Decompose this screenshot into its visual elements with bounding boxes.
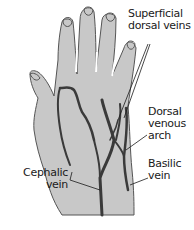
- label-superficial-dorsal-veins: Superficial dorsal veins: [128, 8, 191, 32]
- hand-vein-diagram: Superficial dorsal veins Dorsal venous a…: [0, 0, 194, 230]
- label-line: vein: [14, 179, 68, 191]
- label-cephalic-vein: Cephalic vein: [14, 167, 68, 191]
- label-line: dorsal veins: [128, 20, 191, 32]
- label-basilic-vein: Basilic vein: [148, 158, 181, 182]
- label-dorsal-venous-arch: Dorsal venous arch: [148, 106, 186, 142]
- label-line: vein: [148, 170, 181, 182]
- label-line: arch: [148, 130, 186, 142]
